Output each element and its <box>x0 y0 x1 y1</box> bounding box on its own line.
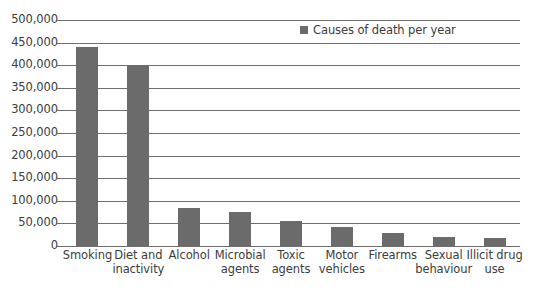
bar-chart: 500,000450,000400,000350,000300,000250,0… <box>0 0 540 292</box>
bar[interactable] <box>76 47 98 246</box>
bar[interactable] <box>484 238 506 246</box>
y-axis-label: 250,000 <box>0 127 58 139</box>
bar-slot <box>469 20 520 246</box>
legend-label: Causes of death per year <box>313 24 456 36</box>
bar-slot <box>418 20 469 246</box>
legend-swatch-icon <box>300 26 308 34</box>
y-axis-labels: 500,000450,000400,000350,000300,000250,0… <box>0 0 58 292</box>
bar[interactable] <box>127 65 149 246</box>
y-axis-label: 450,000 <box>0 37 58 49</box>
bar-slot <box>316 20 367 246</box>
y-axis-label: 400,000 <box>0 59 58 71</box>
bar-slot <box>266 20 317 246</box>
y-axis-label: 500,000 <box>0 14 58 26</box>
bar-slot <box>215 20 266 246</box>
bar[interactable] <box>382 233 404 246</box>
y-axis-label: 150,000 <box>0 172 58 184</box>
y-axis-tick <box>57 246 62 247</box>
x-axis-labels: SmokingDiet andinactivityAlcoholMicrobia… <box>62 249 520 291</box>
y-axis-label: 50,000 <box>0 217 58 229</box>
bar[interactable] <box>331 227 353 246</box>
bar-slot <box>62 20 113 246</box>
chart-legend: Causes of death per year <box>300 24 456 36</box>
y-axis-label: 350,000 <box>0 82 58 94</box>
y-axis-label: 300,000 <box>0 104 58 116</box>
gridline <box>62 246 520 247</box>
bar[interactable] <box>229 212 251 246</box>
bar[interactable] <box>433 237 455 246</box>
bar[interactable] <box>178 208 200 246</box>
bars-layer <box>62 20 520 246</box>
y-axis-label: 200,000 <box>0 150 58 162</box>
x-axis-label: Illicit druguse <box>458 249 531 276</box>
bar[interactable] <box>280 221 302 246</box>
y-axis-label: 100,000 <box>0 195 58 207</box>
bar-slot <box>367 20 418 246</box>
bar-slot <box>113 20 164 246</box>
bar-slot <box>164 20 215 246</box>
y-axis-label: 0 <box>0 240 58 252</box>
